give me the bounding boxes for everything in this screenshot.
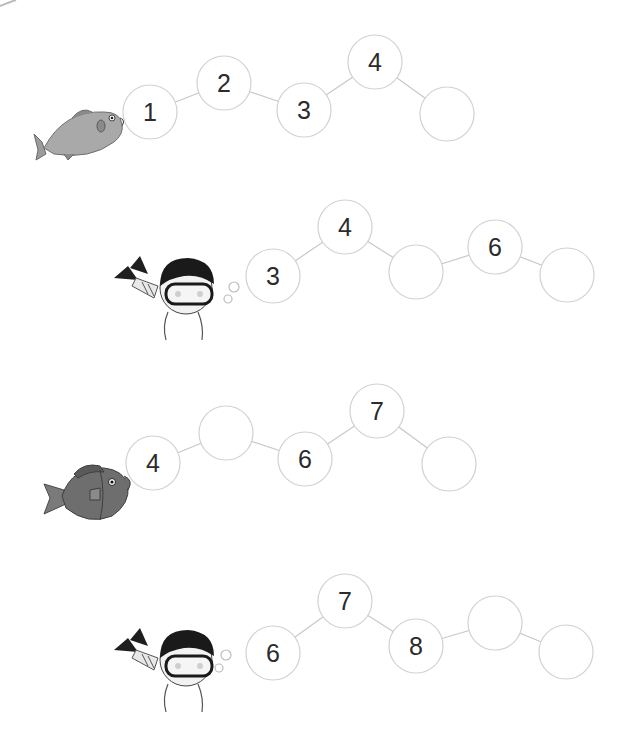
- number-circle: 1: [123, 85, 177, 139]
- number-circle: 2: [197, 56, 251, 110]
- number-circle: 7: [350, 384, 404, 438]
- number-label: 8: [409, 632, 423, 660]
- answer-circle-blank[interactable]: [468, 596, 522, 650]
- worksheet-canvas: 1 2 3 4 3 4 6: [0, 0, 620, 744]
- sequence-row-2: 3 4 6: [114, 200, 594, 340]
- diver-icon: [114, 256, 214, 340]
- number-label: 3: [297, 96, 311, 124]
- number-circle: 3: [277, 83, 331, 137]
- number-label: 7: [338, 587, 352, 615]
- air-bubble-icon: [215, 664, 223, 672]
- number-circle: 4: [126, 436, 180, 490]
- number-label: 1: [143, 98, 157, 126]
- answer-circle-blank[interactable]: [420, 87, 474, 141]
- answer-circle-blank[interactable]: [539, 625, 593, 679]
- sequence-row-4: 6 7 8: [114, 574, 593, 712]
- number-circle: 4: [318, 200, 372, 254]
- air-bubble-icon: [229, 282, 239, 292]
- air-bubble-icon: [224, 295, 232, 303]
- number-label: 4: [338, 213, 352, 241]
- number-circle: 7: [318, 574, 372, 628]
- number-circle: 3: [246, 249, 300, 303]
- sequence-row-1: 1 2 3 4: [34, 35, 474, 160]
- dark-fish-icon: [44, 465, 130, 520]
- answer-circle-blank[interactable]: [540, 248, 594, 302]
- number-circle: 6: [468, 220, 522, 274]
- number-circle: 6: [246, 626, 300, 680]
- air-bubble-icon: [221, 650, 231, 660]
- number-label: 2: [217, 69, 231, 97]
- number-label: 4: [146, 449, 160, 477]
- number-circle: 6: [278, 432, 332, 486]
- number-label: 6: [266, 639, 280, 667]
- number-label: 3: [266, 262, 280, 290]
- answer-circle-blank[interactable]: [389, 245, 443, 299]
- number-circle: 8: [389, 619, 443, 673]
- sequence-row-3: 4 6 7: [44, 384, 476, 520]
- number-label: 7: [370, 397, 384, 425]
- diver-icon: [114, 628, 214, 712]
- answer-circle-blank[interactable]: [422, 437, 476, 491]
- number-circle: 4: [348, 35, 402, 89]
- number-label: 6: [488, 233, 502, 261]
- number-label: 6: [298, 445, 312, 473]
- number-label: 4: [368, 48, 382, 76]
- light-fish-icon: [34, 110, 124, 160]
- answer-circle-blank[interactable]: [199, 406, 253, 460]
- page-edge-decoration: [0, 0, 16, 6]
